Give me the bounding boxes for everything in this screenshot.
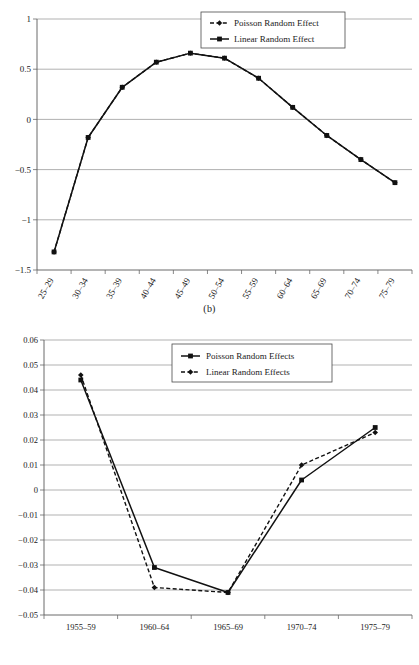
x-axis-tick-label: 1960–64 <box>140 622 171 632</box>
x-axis-tick-label: 75–79 <box>377 276 397 300</box>
figure-b: 10.50−0.5−1−1.525–2930–3435–3940–4445–49… <box>0 0 419 330</box>
data-point-marker <box>299 478 304 483</box>
legend-entry-label: Linear Random Effects <box>206 367 290 377</box>
chart-b-gridlines: 10.50−0.5−1−1.5 <box>15 14 412 275</box>
data-point-marker <box>393 180 398 185</box>
y-axis-tick-label: 0.06 <box>23 335 38 345</box>
data-point-marker <box>324 133 329 138</box>
x-axis-tick-label: 70–74 <box>343 276 363 300</box>
y-axis-tick-label: −1 <box>21 215 31 225</box>
data-point-marker <box>299 462 305 468</box>
figure-c: 0.060.050.040.030.020.010−0.01−0.02−0.03… <box>0 330 419 665</box>
y-axis-tick-label: 1 <box>27 14 32 24</box>
legend-entry-label: Poisson Random Effect <box>234 18 319 28</box>
x-axis-tick-label: 50–54 <box>206 276 226 300</box>
y-axis-tick-label: 0.5 <box>20 64 32 74</box>
y-axis-tick-label: −0.02 <box>18 535 38 545</box>
data-point-marker <box>86 135 91 140</box>
data-point-marker <box>152 565 157 570</box>
legend-marker <box>188 354 193 359</box>
chart-c-legend: Poisson Random EffectsLinear Random Effe… <box>172 344 332 382</box>
chart-b-legend: Poisson Random EffectLinear Random Effec… <box>201 12 345 48</box>
x-axis-tick-label: 40–44 <box>138 276 158 300</box>
data-point-marker <box>222 56 227 61</box>
data-point-marker <box>358 157 363 162</box>
y-axis-tick-label: 0 <box>27 115 32 125</box>
y-axis-tick-label: 0 <box>34 485 38 495</box>
y-axis-tick-label: −0.03 <box>18 560 38 570</box>
legend-entry-label: Poisson Random Effects <box>206 351 295 361</box>
data-point-marker <box>52 250 57 255</box>
x-axis-tick-label: 1970–74 <box>287 622 318 632</box>
y-axis-tick-label: −0.5 <box>15 165 32 175</box>
x-axis-tick-label: 55–59 <box>240 276 260 300</box>
x-axis-tick-label: 1965–69 <box>213 622 243 632</box>
y-axis-tick-label: 0.03 <box>23 410 38 420</box>
y-axis-tick-label: 0.04 <box>23 385 39 395</box>
x-axis-tick-label: 35–39 <box>104 276 124 300</box>
x-axis-tick-label: 30–34 <box>70 276 90 300</box>
chart-b-series-1 <box>51 50 397 254</box>
data-point-marker <box>154 60 159 65</box>
x-axis-tick-label: 65–69 <box>309 276 329 300</box>
x-axis-tick-label: 60–64 <box>275 276 295 300</box>
data-point-marker <box>372 430 378 436</box>
chart-b-x-axis: 25–2930–3435–3940–4445–4950–5455–5960–64… <box>36 270 412 300</box>
x-axis-tick-label: 1975–79 <box>360 622 390 632</box>
y-axis-tick-label: −0.01 <box>18 510 38 520</box>
x-axis-tick-label: 1955–59 <box>66 622 96 632</box>
data-point-marker <box>373 425 378 430</box>
chart-b-series-2 <box>52 51 398 255</box>
x-axis-tick-label: 45–49 <box>172 276 192 300</box>
chart-c-line-plot: 0.060.050.040.030.020.010−0.01−0.02−0.03… <box>0 330 419 635</box>
chart-b-line-plot: 10.50−0.5−1−1.525–2930–3435–3940–4445–49… <box>0 0 419 300</box>
data-point-marker <box>188 51 193 56</box>
data-point-marker <box>152 585 158 591</box>
legend-marker <box>217 37 222 42</box>
y-axis-tick-label: 0.01 <box>23 460 38 470</box>
x-axis-tick-label: 25–29 <box>36 276 56 300</box>
chart-c-series-1 <box>78 378 377 595</box>
y-axis-tick-label: 0.02 <box>23 435 38 445</box>
legend-entry-label: Linear Random Effect <box>234 34 315 44</box>
data-point-marker <box>78 372 84 378</box>
data-point-marker <box>290 105 295 110</box>
y-axis-tick-label: −0.05 <box>18 610 38 620</box>
chart-c-x-axis: 1955–591960–641965–691970–741975–79 <box>44 615 412 632</box>
data-point-marker <box>256 76 261 81</box>
figure-b-caption: (b) <box>0 303 419 314</box>
data-point-marker <box>120 85 125 90</box>
chart-c-series-2 <box>78 372 378 595</box>
y-axis-tick-label: 0.05 <box>23 360 38 370</box>
y-axis-tick-label: −0.04 <box>18 585 38 595</box>
y-axis-tick-label: −1.5 <box>15 265 32 275</box>
